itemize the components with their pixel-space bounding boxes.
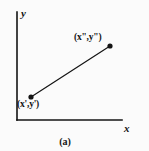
line-segment: [31, 46, 110, 97]
data-point-upper-right: [107, 43, 112, 48]
y-axis-label: y: [21, 8, 26, 19]
x-axis-label: x: [124, 123, 130, 134]
figure-container: y x (x",y") (x',y') (a): [0, 0, 149, 151]
figure-caption: (a): [0, 136, 130, 147]
point-label-upper-right: (x",y"): [74, 33, 101, 43]
point-label-lower-left: (x',y'): [17, 100, 39, 110]
